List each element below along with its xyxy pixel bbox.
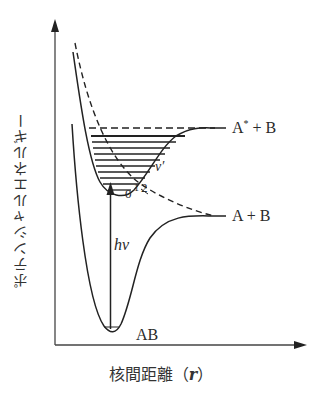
y-axis-label: ポテンシャルエネルギー [10,95,34,305]
photon-energy-label: hν [114,236,129,254]
excited-asymptote-label: A* + B [232,118,276,137]
potential-energy-diagram: ポテンシャルエネルギー 核間距離（r） A* + B A + B AB hν v… [0,0,322,404]
y-axis-arrow-icon [51,19,59,32]
diagram-canvas [0,0,322,404]
excited-asymptote-rest: + B [249,119,277,136]
x-axis-arrow-icon [294,341,307,349]
excited-state-curve [73,52,226,196]
vib-level-1-label: 1 [134,182,139,193]
ground-state-label: AB [136,326,158,344]
x-axis-label-main: 核間距離 [109,365,173,384]
vib-level-2-label: 2 [141,180,148,196]
x-axis-label-variable: r [189,365,197,384]
x-axis-label-paren-open: （ [173,365,189,384]
photon-excitation-arrow [107,182,115,329]
ground-state-curve [72,124,226,332]
y-axis [51,19,59,345]
vibrational-quantum-label: v′ [155,159,164,175]
x-axis-label-paren-close: ） [197,365,213,384]
excited-asymptote-a: A [232,119,244,136]
x-axis-label: 核間距離（r） [0,361,322,385]
vib-level-0-label: 0 [125,186,132,202]
ground-asymptote-label: A + B [232,207,270,225]
x-axis [55,341,307,349]
